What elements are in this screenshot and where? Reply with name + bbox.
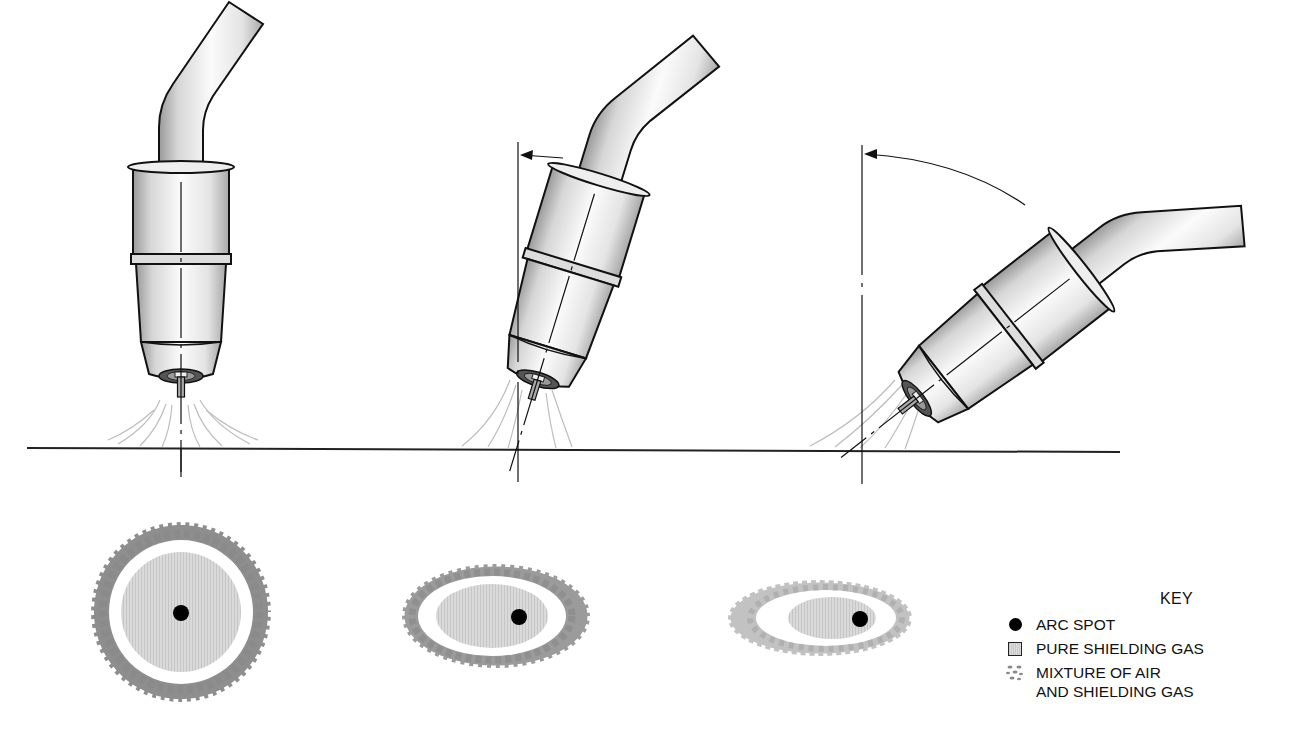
torch-vertical [108,2,263,477]
pattern-slight-tilt [402,564,590,668]
pattern-steep-tilt [728,580,912,656]
arrowhead-icon [864,149,877,159]
arrowhead-icon [520,150,533,160]
work-surface-line [27,448,1120,452]
angle-arrow [866,154,1025,205]
arc-spot [173,605,189,621]
torch-steep-tilt [808,126,1261,522]
gas-flow-lines [462,380,572,448]
pure-gas-square-icon [1004,639,1026,658]
arc-spot [852,611,868,627]
mixture-particles-icon [1004,663,1026,682]
gas-flow-lines [108,400,258,447]
arc-spot [511,609,527,625]
legend-item-arc-spot: ARC SPOT [1004,615,1115,634]
legend-item-pure-gas: PURE SHIELDING GAS [1004,639,1204,658]
pattern-vertical [91,522,271,702]
legend-item-mixture: MIXTURE OF AIR AND SHIELDING GAS [1004,663,1194,701]
arc-spot-dot-icon [1004,615,1026,634]
legend-title: KEY [1160,590,1193,608]
pure-gas-region [436,584,548,648]
torch-slight-tilt [459,6,726,495]
